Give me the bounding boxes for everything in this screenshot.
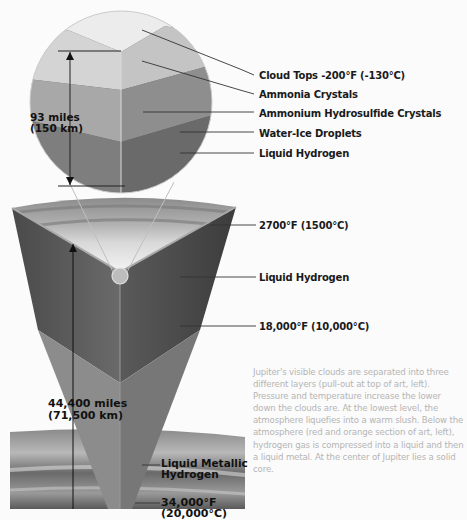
label-core-temperature: 34,000°F (20,000°C)	[161, 497, 227, 519]
metallic-line2: Hydrogen	[161, 469, 248, 480]
label-ammonium-hydrosulfide: Ammonium Hydrosulfide Crystals	[259, 108, 441, 119]
pullout-dimension-km: (150 km)	[30, 123, 83, 134]
label-liquid-hydrogen: Liquid Hydrogen	[259, 272, 349, 283]
pullout-dimension-label: 93 miles (150 km)	[30, 112, 83, 134]
cutaway-dimension-km: (71,500 km)	[48, 410, 127, 422]
label-water-ice-droplets: Water-Ice Droplets	[259, 128, 362, 139]
label-liquid-hydrogen-pullout: Liquid Hydrogen	[259, 148, 349, 159]
cutaway-dimension-label: 44,400 miles (71,500 km)	[48, 398, 127, 422]
label-2700f: 2700°F (1500°C)	[259, 220, 348, 231]
label-18000f: 18,000°F (10,000°C)	[259, 321, 369, 332]
magnified-spot	[112, 268, 128, 284]
label-cloud-tops: Cloud Tops -200°F (-130°C)	[259, 70, 405, 81]
pullout-magnifier	[20, 0, 230, 200]
label-ammonia-crystals: Ammonia Crystals	[259, 89, 358, 100]
core-temp-c: (20,000°C)	[161, 508, 227, 519]
caption-paragraph: Jupiter's visible clouds are separated i…	[253, 366, 465, 475]
label-liquid-metallic-hydrogen: Liquid Metallic Hydrogen	[161, 458, 248, 480]
